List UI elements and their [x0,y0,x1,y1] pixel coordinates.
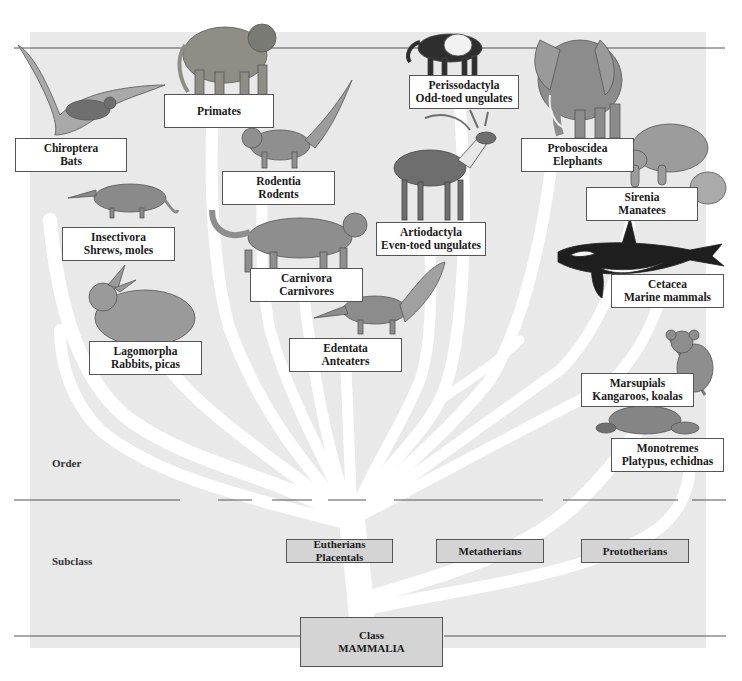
order-box-lagomorpha: Lagomorpha Rabbits, picas [89,341,202,375]
order-common-name: Bats [60,155,82,168]
class-box-mammalia: Class MAMMALIA [300,617,443,667]
order-common-name: Carnivores [279,285,334,298]
order-name: Primates [197,105,241,118]
subclass-box-eutherians: Eutherians Placentals [286,539,393,563]
order-box-edentata: Edentata Anteaters [289,338,402,372]
order-name: Cetacea [648,278,687,291]
order-name: Marsupials [610,377,666,390]
subclass-box-prototherians: Prototherians [581,539,689,563]
order-name: Chiroptera [44,142,99,155]
order-common-name: Manatees [618,204,665,217]
order-common-name: Marine mammals [624,291,711,304]
subclass-name: Metatherians [459,545,522,558]
order-box-monotremes: Monotremes Platypus, echidnas [611,438,724,472]
order-box-insectivora: Insectivora Shrews, moles [62,227,175,261]
subclass-box-metatherians: Metatherians [436,539,544,563]
order-box-proboscidea: Proboscidea Elephants [521,138,634,172]
bat-icon [18,45,165,135]
deer-icon [394,110,496,220]
level-label-subclass: Subclass [52,555,92,567]
order-name: Insectivora [91,231,146,244]
order-box-sirenia: Sirenia Manatees [586,187,698,221]
cougar-icon [212,210,367,272]
order-name: Lagomorpha [114,345,178,358]
order-common-name: Even-toed ungulates [381,239,481,252]
order-box-artiodactyla: Artiodactyla Even-toed ungulates [376,222,486,256]
order-common-name: Rodents [258,188,298,201]
order-name: Perissodactyla [429,79,500,92]
order-common-name: Platypus, echidnas [622,455,713,468]
rabbit-icon [89,265,195,346]
platypus-icon [596,406,699,434]
order-common-name: Anteaters [322,355,370,368]
order-common-name: Elephants [553,155,602,168]
shrew-icon [68,184,178,218]
order-name: Proboscidea [548,142,608,155]
baboon-icon [179,24,276,96]
class-label: Class [359,629,384,642]
subclass-name: Eutherians [314,538,366,551]
subclass-name: Prototherians [603,545,668,558]
order-common-name: Rabbits, picas [111,358,180,371]
order-common-name: Kangaroos, koalas [592,390,683,403]
order-name: Sirenia [625,191,660,204]
order-name: Rodentia [256,175,301,188]
level-label-order: Order [52,457,81,469]
order-box-carnivora: Carnivora Carnivores [250,268,363,302]
order-name: Edentata [323,342,368,355]
order-box-marsupials: Marsupials Kangaroos, koalas [581,373,694,407]
class-name: MAMMALIA [338,642,405,655]
tapir-icon [408,34,482,76]
order-box-primates: Primates [164,94,274,128]
order-box-cetacea: Cetacea Marine mammals [611,274,724,308]
order-common-name: Odd-toed ungulates [416,92,513,105]
order-box-chiroptera: Chiroptera Bats [15,138,127,172]
order-common-name: Shrews, moles [84,244,153,257]
order-box-rodentia: Rodentia Rodents [222,171,335,205]
order-box-perissodactyla: Perissodactyla Odd-toed ungulates [409,75,519,109]
order-name: Artiodactyla [400,226,462,239]
order-name: Monotremes [637,442,699,455]
order-name: Carnivora [281,272,332,285]
elephant-icon [535,40,622,138]
subclass-common-name: Placentals [316,551,364,564]
